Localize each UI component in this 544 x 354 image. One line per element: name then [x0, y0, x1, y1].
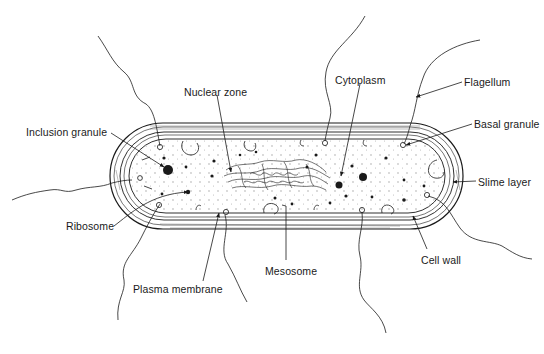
bacterial-cell-diagram: Nuclear zone Cytoplasm Flagellum Basal g…: [0, 0, 544, 354]
label-cytoplasm: Cytoplasm: [335, 74, 386, 86]
flagellum-right: [428, 196, 532, 259]
label-flagellum: Flagellum: [464, 76, 510, 88]
label-ribosome: Ribosome: [66, 220, 114, 232]
label-basal-granule: Basal granule: [474, 118, 540, 130]
flagellum-top-right: [404, 40, 480, 144]
leader-plasma-membrane: [203, 213, 219, 281]
leader-flagellum: [416, 82, 462, 97]
label-nuclear-zone: Nuclear zone: [184, 86, 247, 98]
leader-cell-wall: [413, 216, 427, 249]
cell-illustration: [0, 0, 544, 354]
label-mesosome: Mesosome: [265, 265, 317, 277]
label-slime-layer: Slime layer: [478, 176, 531, 188]
leader-slime-layer: [453, 181, 476, 182]
label-inclusion-granule: Inclusion granule: [26, 126, 107, 138]
label-plasma-membrane: Plasma membrane: [133, 283, 223, 295]
label-cell-wall: Cell wall: [421, 254, 461, 266]
cytoplasm-fill: [130, 140, 444, 212]
flagellum-bottom-center: [359, 212, 386, 333]
flagellum-bottom-left-1: [118, 204, 160, 320]
inclusion-granule-dot: [163, 165, 173, 175]
flagellum-top-left: [98, 36, 160, 146]
